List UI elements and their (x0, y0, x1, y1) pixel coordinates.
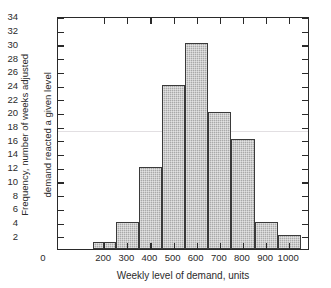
histogram-bar (231, 139, 254, 249)
y-axis-tick (58, 73, 64, 74)
y-tick-label: 8 (13, 191, 18, 201)
y-axis-tick (58, 210, 64, 211)
y-tick-label: 18 (7, 122, 18, 132)
y-axis-tick-right (302, 155, 308, 156)
y-axis-tick-right (302, 59, 308, 60)
y-axis-tick (58, 155, 64, 156)
x-axis-tick (266, 243, 267, 249)
y-axis-tick (58, 32, 64, 33)
histogram-bar (139, 167, 162, 249)
x-axis-tick (243, 243, 244, 249)
y-axis-tick-right (302, 18, 308, 19)
histogram-figure: Frequency, number of weeks adjusted dema… (0, 0, 331, 288)
x-axis-tick (104, 243, 105, 249)
x-tick-label: 0 (23, 253, 63, 263)
y-axis-tick-right (302, 169, 308, 170)
y-axis-tick (58, 224, 64, 225)
y-tick-label: 16 (7, 136, 18, 146)
y-tick-label: 26 (7, 67, 18, 77)
x-axis-tick-top (174, 18, 175, 24)
y-tick-label: 4 (13, 218, 18, 228)
y-axis-tick (58, 18, 64, 19)
y-tick-label: 14 (7, 149, 18, 159)
y-axis-tick-right (302, 224, 308, 225)
y-axis-tick-right (302, 87, 308, 88)
y-tick-label: 20 (7, 108, 18, 118)
x-axis-tick (150, 243, 151, 249)
y-axis-tick-right (302, 141, 308, 142)
x-tick-label: 1000 (268, 253, 308, 263)
y-tick-label: 2 (13, 232, 18, 242)
y-tick-label: 30 (7, 40, 18, 50)
y-axis-title-line-1: Frequency, number of weeks adjusted (20, 54, 31, 216)
histogram-bar (185, 43, 208, 249)
histogram-bar (104, 242, 116, 249)
y-tick-label: 12 (7, 163, 18, 173)
y-axis-tick-right (302, 237, 308, 238)
x-axis-tick (197, 243, 198, 249)
y-tick-label: 34 (7, 12, 18, 22)
y-tick-label: 28 (7, 54, 18, 64)
y-axis-tick-right (302, 32, 308, 33)
x-axis-tick (289, 243, 290, 249)
plot-area (57, 17, 309, 250)
y-tick-label: 22 (7, 95, 18, 105)
y-axis-tick (58, 141, 64, 142)
y-axis-tick-right (302, 45, 308, 46)
histogram-bar (208, 112, 231, 249)
x-axis-tick-top (220, 18, 221, 24)
y-axis-tick-right (302, 182, 308, 183)
y-axis-tick (58, 182, 64, 183)
y-axis-tick (58, 45, 64, 46)
y-axis-tick (58, 237, 64, 238)
y-axis-tick (58, 100, 64, 101)
y-axis-tick (58, 114, 64, 115)
y-axis-tick (58, 169, 64, 170)
x-axis-title: Weekly level of demand, units (57, 270, 309, 281)
y-axis-tick-right (302, 114, 308, 115)
y-tick-label: 32 (7, 26, 18, 36)
y-axis-tick-right (302, 210, 308, 211)
y-axis-tick (58, 128, 64, 129)
y-axis-tick (58, 87, 64, 88)
x-axis-tick (174, 243, 175, 249)
x-axis-tick-top (127, 18, 128, 24)
plot-inner (58, 18, 308, 249)
x-axis-tick-top (104, 18, 105, 24)
y-axis-title-line-2: demand reacted a given level (42, 72, 53, 197)
y-axis-tick (58, 196, 64, 197)
y-axis-tick-right (302, 128, 308, 129)
x-axis-tick-top (243, 18, 244, 24)
x-axis-tick (127, 243, 128, 249)
y-axis-tick-right (302, 73, 308, 74)
x-axis-tick-top (266, 18, 267, 24)
y-tick-label: 10 (7, 177, 18, 187)
y-tick-label: 24 (7, 81, 18, 91)
y-tick-label: 6 (13, 204, 18, 214)
y-axis-tick-right (302, 196, 308, 197)
x-axis-tick-top (150, 18, 151, 24)
histogram-bar (93, 242, 105, 249)
y-axis-tick-right (302, 100, 308, 101)
x-axis-tick-top (289, 18, 290, 24)
histogram-bar (162, 85, 185, 249)
x-axis-tick-top (197, 18, 198, 24)
y-axis-tick (58, 59, 64, 60)
x-axis-tick (220, 243, 221, 249)
